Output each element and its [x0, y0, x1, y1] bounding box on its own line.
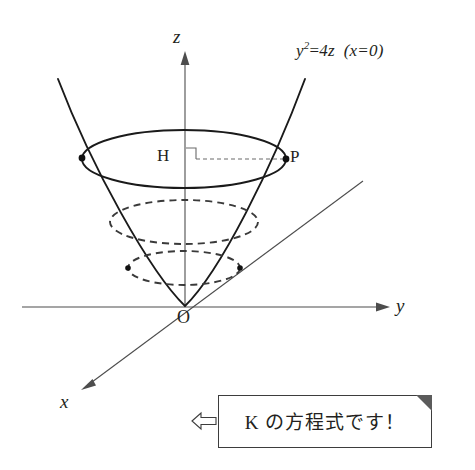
x-axis-label: x — [60, 392, 68, 411]
y-axis — [22, 303, 390, 312]
parabola-arms — [58, 79, 305, 306]
lower-cross-section-circle — [128, 251, 240, 285]
callout-text: K の方程式です！ — [218, 395, 432, 448]
left-double-arrow-icon — [190, 408, 218, 434]
hp-dashed-segment — [186, 148, 285, 159]
x-axis — [81, 181, 363, 390]
y-axis-label: y — [396, 296, 404, 315]
z-axis — [181, 51, 190, 307]
mid-cross-section-circle — [110, 200, 258, 244]
equation-rhs: 4z — [319, 41, 335, 60]
equation-lhs-var: y — [296, 41, 304, 60]
equation-label: y2=4z (x=0) — [296, 40, 384, 59]
equation-equals: = — [309, 41, 319, 60]
origin-label: O — [177, 308, 190, 326]
figure-root: z y x O H P y2=4z (x=0) K の方程式です！ — [0, 0, 475, 470]
point-p-label: P — [290, 148, 299, 165]
intersection-dots — [79, 155, 290, 271]
point-h-label: H — [157, 147, 169, 164]
equation-condition: (x=0) — [344, 41, 384, 60]
callout-note: K の方程式です！ — [218, 395, 432, 448]
z-axis-label: z — [173, 27, 180, 46]
